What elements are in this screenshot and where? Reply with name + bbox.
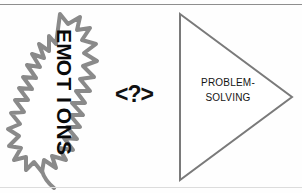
problem-solving-line2: SOLVING [188,90,268,105]
emotions-shape: E M O T I O N S [4,8,108,190]
emotions-label: E M O T I O N S [44,28,84,176]
top-rule-line [0,4,302,5]
emotions-letter: S [56,141,72,155]
emotions-letter: T [56,78,72,91]
emotions-letter: E [56,29,72,43]
emotions-letter: M [56,43,72,61]
problem-solving-label: PROBLEM- SOLVING [188,75,268,105]
problem-solving-shape: PROBLEM- SOLVING [172,8,298,188]
question-connector: <?> [108,82,160,107]
emotions-letter: I [56,97,72,103]
problem-solving-line1: PROBLEM- [188,75,268,90]
emotions-letter: N [56,124,72,139]
bottom-rule-line [0,187,302,188]
diagram-canvas: E M O T I O N S <?> PROBLEM- SOLVING [0,0,302,193]
emotions-letter: O [56,60,72,76]
emotions-letter: O [56,108,72,124]
